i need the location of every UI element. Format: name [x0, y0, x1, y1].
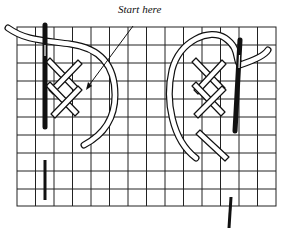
right-needle-mark	[229, 197, 231, 228]
left-thread	[8, 28, 115, 145]
left-cross-stitches	[46, 58, 82, 118]
stitch-diagram	[0, 0, 286, 233]
right-cross-stitches	[192, 58, 229, 161]
